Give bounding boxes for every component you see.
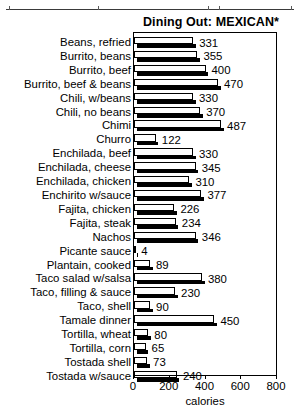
bar-shadow <box>137 364 150 368</box>
bar-shadow <box>137 323 217 327</box>
bar-row: Enchilada, chicken310 <box>0 175 299 189</box>
category-label: Burrito, beans <box>60 50 131 64</box>
category-label: Chimi <box>102 119 131 133</box>
bar <box>134 357 147 364</box>
bar-shadow <box>137 114 203 118</box>
x-axis-tick-label: 600 <box>220 380 260 393</box>
category-label: Tortilla, corn <box>70 342 131 356</box>
bar <box>134 65 206 72</box>
bar-value-label: 90 <box>156 301 169 313</box>
bar-row: Burrito, beef400 <box>0 64 299 78</box>
bar-value-label: 487 <box>227 120 246 132</box>
bar-shadow <box>137 211 177 215</box>
bar-value-label: 470 <box>224 78 243 90</box>
category-label: Fajita, chicken <box>58 203 131 217</box>
bar-row: Tortilla, wheat80 <box>0 328 299 342</box>
bar <box>134 162 196 169</box>
artifact-tick <box>291 6 292 10</box>
category-label: Fajita, steak <box>70 217 131 231</box>
bar <box>134 232 196 239</box>
category-label: Nachos <box>92 231 131 245</box>
bar <box>134 329 148 336</box>
bar <box>134 37 193 44</box>
x-axis-tick-label: 0 <box>113 380 153 393</box>
bar <box>134 246 136 253</box>
bar-row: Enchilada, beef330 <box>0 147 299 161</box>
category-label: Burrito, beef & beans <box>24 78 131 92</box>
bar <box>134 315 214 322</box>
category-label: Tortilla, wheat <box>61 328 131 342</box>
bar-value-label: 226 <box>180 203 199 215</box>
bar-rows-container: Beans, refried331Burrito, beans355Burrit… <box>0 36 299 384</box>
bar-shadow <box>137 281 205 285</box>
chart-title: Dining Out: MEXICAN* <box>128 15 294 29</box>
bar-shadow <box>137 225 179 229</box>
bar-row: Enchirito w/sauce377 <box>0 189 299 203</box>
bar-row: Chimi487 <box>0 119 299 133</box>
bar-row: Plantain, cooked89 <box>0 259 299 273</box>
bar-value-label: 73 <box>153 356 166 368</box>
x-axis-tick-label: 400 <box>185 380 225 393</box>
bar-row: Enchilada, cheese345 <box>0 161 299 175</box>
bar-value-label: 355 <box>203 50 222 62</box>
bar-row: Burrito, beans355 <box>0 50 299 64</box>
x-axis-tick <box>205 375 206 379</box>
bar <box>134 51 197 58</box>
bar-shadow <box>137 156 196 160</box>
category-label: Churro <box>96 133 131 147</box>
bar-shadow <box>137 253 138 257</box>
bar-value-label: 370 <box>206 106 225 118</box>
bar-shadow <box>137 44 196 48</box>
bar-shadow <box>137 350 149 354</box>
bar <box>134 301 150 308</box>
bar-row: Fajita, chicken226 <box>0 203 299 217</box>
bar-row: Picante sauce4 <box>0 245 299 259</box>
artifact-horizontal-rule <box>6 9 294 10</box>
bar <box>134 273 202 280</box>
bar-shadow <box>137 72 209 76</box>
bar <box>134 287 175 294</box>
category-label: Enchilada, cheese <box>38 161 131 175</box>
bar <box>134 148 193 155</box>
bar-shadow <box>137 239 199 243</box>
x-axis-tick-label: 200 <box>149 380 189 393</box>
bar <box>134 107 200 114</box>
bar-row: Taco, filling & sauce230 <box>0 286 299 300</box>
category-label: Taco salad w/salsa <box>35 272 131 286</box>
bar-row: Taco salad w/salsa380 <box>0 272 299 286</box>
bar-shadow <box>137 309 153 313</box>
bar-value-label: 310 <box>195 176 214 188</box>
category-label: Picante sauce <box>59 245 131 259</box>
category-label: Taco, filling & sauce <box>30 286 131 300</box>
bar-shadow <box>137 183 192 187</box>
category-label: Beans, refried <box>60 36 131 50</box>
bar <box>134 134 156 141</box>
category-label: Enchilada, chicken <box>36 175 131 189</box>
bar-row: Chili, w/beans330 <box>0 92 299 106</box>
bar-value-label: 346 <box>202 231 221 243</box>
bar <box>134 120 221 127</box>
category-label: Chili, w/beans <box>60 92 131 106</box>
bar-value-label: 65 <box>152 342 165 354</box>
x-axis-title: calories <box>133 395 277 407</box>
bar <box>134 218 176 225</box>
bar <box>134 343 146 350</box>
category-label: Tostada shell <box>65 356 132 370</box>
bar-row: Tortilla, corn65 <box>0 342 299 356</box>
bar-shadow <box>137 267 153 271</box>
bar-value-label: 450 <box>220 315 239 327</box>
bar <box>134 204 174 211</box>
artifact-tick <box>98 6 99 10</box>
bar <box>134 79 218 86</box>
bar-value-label: 89 <box>156 259 169 271</box>
x-axis-tick <box>276 375 277 379</box>
x-axis-tick-label: 800 <box>256 380 296 393</box>
bar-value-label: 345 <box>202 162 221 174</box>
bar-value-label: 230 <box>181 287 200 299</box>
category-label: Burrito, beef <box>69 64 131 78</box>
bar-value-label: 377 <box>207 189 226 201</box>
bar-shadow <box>137 295 178 299</box>
bar <box>134 176 189 183</box>
bar-value-label: 400 <box>212 64 231 76</box>
bar-shadow <box>137 336 151 340</box>
